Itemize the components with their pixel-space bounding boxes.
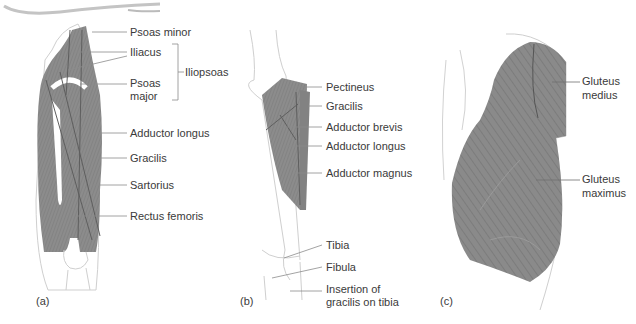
header-swoosh [4, 4, 160, 13]
panel-b-drawing [249, 30, 310, 300]
label-adductor-longus-a: Adductor longus [130, 127, 210, 140]
label-psoas-minor: Psoas minor [130, 26, 191, 39]
label-gluteus-medius-line1: Gluteus [582, 75, 620, 88]
label-psoas-major-line1: Psoas [130, 77, 161, 90]
label-adductor-longus-b: Adductor longus [326, 140, 406, 153]
panel-caption-c: (c) [440, 295, 453, 307]
label-gluteus-maximus-line2: maximus [582, 187, 626, 200]
label-insertion-line2: gracilis on tibia [326, 296, 399, 309]
anatomy-illustration [0, 0, 636, 324]
label-gracilis-b: Gracilis [326, 100, 363, 113]
label-rectus-femoris: Rectus femoris [130, 210, 203, 223]
label-insertion-line1: Insertion of [326, 283, 380, 296]
label-gluteus-maximus-line1: Gluteus [582, 173, 620, 186]
label-iliacus: Iliacus [130, 46, 161, 59]
label-tibia: Tibia [326, 239, 349, 252]
label-gracilis-a: Gracilis [130, 152, 167, 165]
label-sartorius: Sartorius [130, 179, 174, 192]
label-iliopsoas-group: Iliopsoas [185, 66, 228, 79]
panel-caption-b: (b) [240, 295, 253, 307]
label-psoas-major-line2: major [130, 90, 158, 103]
label-pectineus: Pectineus [326, 81, 374, 94]
label-adductor-brevis: Adductor brevis [326, 121, 402, 134]
panel-caption-a: (a) [36, 295, 49, 307]
panel-c-drawing [442, 34, 566, 310]
label-adductor-magnus: Adductor magnus [326, 167, 412, 180]
label-fibula: Fibula [326, 261, 356, 274]
label-gluteus-medius-line2: medius [582, 89, 617, 102]
